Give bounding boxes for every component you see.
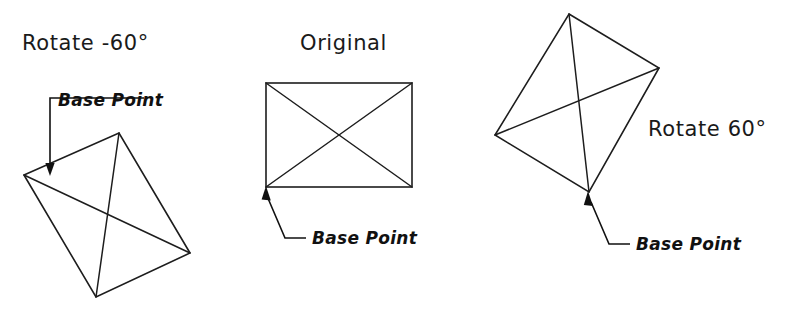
panel-rotate-plus-60: Rotate 60° Base Point [495, 14, 767, 254]
diagonal-plus-60-b [495, 68, 659, 135]
heading-rotate-plus-60: Rotate 60° [648, 117, 767, 141]
callout-label-right: Base Point [636, 234, 742, 254]
heading-rotate-minus-60: Rotate -60° [22, 31, 149, 55]
panel-original: Original Base Point [262, 31, 418, 248]
diagram-canvas: Rotate -60° Base Point Original Base Poi… [0, 0, 793, 310]
callout-label-middle: Base Point [312, 228, 418, 248]
shape-rotated-plus-60 [495, 14, 659, 192]
diagonal-minus-60-b [96, 133, 119, 297]
rotation-diagram-svg: Rotate -60° Base Point Original Base Poi… [0, 0, 793, 310]
callout-label-left: Base Point [58, 90, 164, 110]
callout-leader-middle [267, 196, 306, 238]
callout-leader-right [591, 202, 630, 244]
panel-rotate-minus-60: Rotate -60° Base Point [22, 31, 190, 297]
callout-arrow-middle [262, 186, 271, 201]
callout-arrow-right [584, 191, 593, 206]
callout-arrow-left [45, 163, 54, 176]
heading-original: Original [300, 31, 387, 55]
